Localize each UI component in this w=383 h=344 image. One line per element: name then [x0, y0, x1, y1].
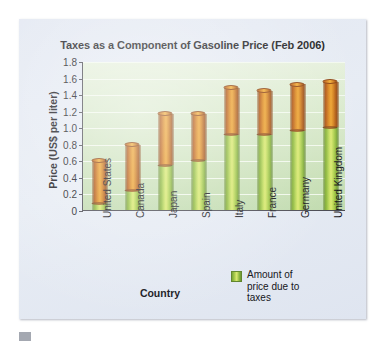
bar-segment-base-price — [257, 91, 272, 135]
bar-segment-divider — [191, 159, 206, 162]
y-tick-label: 1.8 — [63, 57, 77, 68]
y-tick-label: 0.6 — [63, 156, 77, 167]
bar-segment-divider — [223, 133, 238, 136]
legend-swatch-taxes — [231, 271, 242, 282]
bar-top-cap — [289, 82, 304, 87]
bar-segment-base-price — [224, 88, 239, 135]
page-caption — [19, 330, 359, 342]
y-tick-label: 1.2 — [63, 106, 77, 117]
y-tick-label: 1.6 — [63, 73, 77, 84]
gridline — [83, 161, 345, 162]
chart-legend: Amount of price due to taxes — [231, 269, 317, 304]
caption-marker-icon — [19, 332, 31, 341]
bar-segment-divider — [289, 129, 304, 132]
x-tick-label-japan: Japan — [168, 191, 179, 218]
gridline — [83, 112, 345, 113]
bar-top-cap — [125, 142, 140, 147]
y-tick-mark — [79, 211, 83, 212]
y-tick-label: 0.8 — [63, 139, 77, 150]
x-axis-title: Country — [115, 287, 205, 299]
bar-segment-base-price — [159, 114, 174, 165]
y-tick-mark — [79, 62, 83, 63]
x-tick-label-spain: Spain — [201, 192, 212, 218]
chart-title: Taxes as a Component of Gasoline Price (… — [19, 39, 366, 51]
y-tick-mark — [79, 145, 83, 146]
bar-top-cap — [158, 111, 173, 116]
legend-label-taxes: Amount of price due to taxes — [247, 269, 317, 304]
bar-top-cap — [256, 88, 271, 93]
bar-top-cap — [322, 79, 337, 84]
bar-top-cap — [223, 85, 238, 90]
x-tick-label-united-states: United States — [102, 158, 113, 218]
bar-top-cap — [191, 111, 206, 116]
y-tick-label: 1.4 — [63, 90, 77, 101]
x-tick-label-united-kingdom: United Kingdom — [333, 147, 344, 218]
y-tick-mark — [79, 128, 83, 129]
y-tick-mark — [79, 194, 83, 195]
y-tick-mark — [79, 112, 83, 113]
x-tick-label-germany: Germany — [300, 177, 311, 218]
gridline — [83, 79, 345, 80]
y-axis-title: Price (US$ per liter) — [47, 65, 59, 215]
y-tick-label: 0.2 — [63, 189, 77, 200]
gridline — [83, 128, 345, 129]
bar-segment-base-price — [192, 114, 207, 160]
gridline — [83, 62, 345, 63]
y-tick-label: 0.4 — [63, 172, 77, 183]
bar-segment-base-price — [323, 82, 338, 128]
y-tick-label: 0 — [71, 206, 77, 217]
gridline — [83, 95, 345, 96]
x-tick-label-france: France — [267, 187, 278, 218]
x-tick-label-canada: Canada — [135, 183, 146, 218]
bar-segment-divider — [158, 164, 173, 167]
x-tick-label-italy: Italy — [234, 200, 245, 218]
y-tick-mark — [79, 95, 83, 96]
y-tick-label: 1.0 — [63, 123, 77, 134]
y-tick-mark — [79, 161, 83, 162]
figure-panel: Taxes as a Component of Gasoline Price (… — [19, 19, 366, 319]
bar-italy — [224, 88, 237, 211]
y-tick-mark — [79, 178, 83, 179]
bar-segment-base-price — [290, 84, 305, 130]
gridline — [83, 145, 345, 146]
y-tick-mark — [79, 79, 83, 80]
